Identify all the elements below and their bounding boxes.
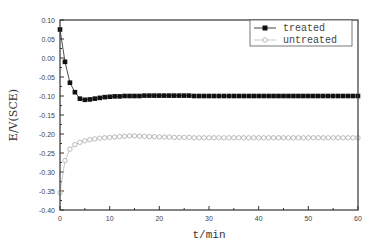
data-point-untreated xyxy=(286,136,290,140)
data-point-treated xyxy=(331,94,336,99)
y-tick-label: -0.30 xyxy=(39,169,55,176)
series-markers xyxy=(58,27,361,195)
y-tick-label: 0.10 xyxy=(41,17,55,24)
data-point-untreated xyxy=(301,136,305,140)
data-point-treated xyxy=(73,90,78,95)
data-point-untreated xyxy=(222,136,226,140)
data-point-untreated xyxy=(157,135,161,139)
y-tick-label: -0.40 xyxy=(39,207,55,214)
data-point-treated xyxy=(301,94,306,99)
data-point-untreated xyxy=(281,136,285,140)
x-tick-label: 30 xyxy=(205,215,213,222)
data-point-untreated xyxy=(147,134,151,138)
y-tick-label: -0.05 xyxy=(39,74,55,81)
y-tick-label: -0.35 xyxy=(39,188,55,195)
data-point-untreated xyxy=(212,136,216,140)
data-point-treated xyxy=(351,94,356,99)
data-point-untreated xyxy=(207,136,211,140)
data-point-treated xyxy=(172,93,177,98)
data-point-treated xyxy=(227,94,232,99)
data-point-treated xyxy=(237,94,242,99)
data-point-untreated xyxy=(192,136,196,140)
data-point-untreated xyxy=(68,147,72,151)
data-point-untreated xyxy=(276,136,280,140)
data-point-untreated xyxy=(73,142,77,146)
data-point-untreated xyxy=(182,135,186,139)
x-tick-label: 50 xyxy=(304,215,312,222)
data-point-untreated xyxy=(197,136,201,140)
data-point-treated xyxy=(276,94,281,99)
data-point-treated xyxy=(326,94,331,99)
data-point-treated xyxy=(286,94,291,99)
data-point-untreated xyxy=(346,136,350,140)
data-point-untreated xyxy=(266,136,270,140)
data-point-treated xyxy=(152,93,157,98)
data-point-untreated xyxy=(227,136,231,140)
data-point-treated xyxy=(88,97,93,102)
data-point-treated xyxy=(266,94,271,99)
data-point-untreated xyxy=(83,139,87,143)
data-point-treated xyxy=(157,93,162,98)
data-point-treated xyxy=(296,94,301,99)
data-point-untreated xyxy=(112,135,116,139)
data-point-treated xyxy=(341,94,346,99)
data-point-untreated xyxy=(177,135,181,139)
data-point-treated xyxy=(222,94,227,99)
data-point-untreated xyxy=(122,134,126,138)
data-point-treated xyxy=(232,94,237,99)
data-point-treated xyxy=(97,96,102,101)
chart-canvas: 01020304050600.100.050.00-0.05-0.10-0.15… xyxy=(0,0,378,249)
data-point-treated xyxy=(321,94,326,99)
data-point-untreated xyxy=(252,136,256,140)
data-point-untreated xyxy=(167,135,171,139)
data-point-treated xyxy=(147,93,152,98)
data-point-treated xyxy=(251,94,256,99)
data-point-untreated xyxy=(336,136,340,140)
y-axis-title: E/V(SCE) xyxy=(7,89,20,141)
data-point-untreated xyxy=(142,134,146,138)
data-point-untreated xyxy=(261,136,265,140)
data-point-untreated xyxy=(341,136,345,140)
data-point-treated xyxy=(92,96,97,101)
data-point-untreated xyxy=(93,137,97,141)
data-point-treated xyxy=(102,95,107,100)
data-point-treated xyxy=(117,94,122,99)
data-point-treated xyxy=(202,94,207,99)
data-point-untreated xyxy=(78,140,82,144)
data-point-untreated xyxy=(247,136,251,140)
x-tick-label: 40 xyxy=(255,215,263,222)
data-point-untreated xyxy=(326,136,330,140)
data-point-treated xyxy=(142,93,147,98)
axis-ticks: 01020304050600.100.050.00-0.05-0.10-0.15… xyxy=(39,17,362,223)
data-point-treated xyxy=(197,94,202,99)
data-point-treated xyxy=(192,94,197,99)
y-tick-label: 0.05 xyxy=(41,36,55,43)
data-point-treated xyxy=(207,94,212,99)
data-point-treated xyxy=(246,94,251,99)
data-point-treated xyxy=(68,80,73,85)
data-point-treated xyxy=(137,94,142,99)
x-tick-label: 0 xyxy=(58,215,62,222)
data-point-untreated xyxy=(291,136,295,140)
data-point-treated xyxy=(291,94,296,99)
y-tick-label: -0.10 xyxy=(39,93,55,100)
data-point-treated xyxy=(78,96,83,101)
data-point-treated xyxy=(177,93,182,98)
data-point-treated xyxy=(63,60,68,65)
data-point-untreated xyxy=(88,138,92,142)
data-point-untreated xyxy=(237,136,241,140)
data-point-treated xyxy=(316,94,321,99)
data-point-untreated xyxy=(63,158,67,162)
data-point-treated xyxy=(132,94,137,99)
data-point-untreated xyxy=(242,136,246,140)
data-point-treated xyxy=(112,94,117,99)
data-point-treated xyxy=(212,94,217,99)
data-point-treated xyxy=(261,94,266,99)
y-tick-label: -0.15 xyxy=(39,112,55,119)
data-point-untreated xyxy=(311,136,315,140)
data-point-treated xyxy=(122,94,127,99)
data-point-untreated xyxy=(296,136,300,140)
data-point-untreated xyxy=(98,136,102,140)
legend-label-treated: treated xyxy=(283,23,325,34)
data-point-treated xyxy=(107,94,112,99)
